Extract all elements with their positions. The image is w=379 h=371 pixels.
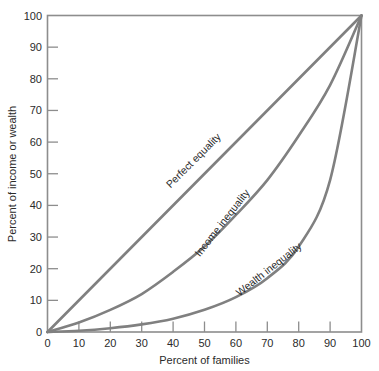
y-tick-label: 50 <box>30 168 42 180</box>
curve-label-wealth-inequality: Wealth inequality <box>233 239 304 298</box>
curve-perfect-equality <box>48 16 362 333</box>
x-tick-label: 90 <box>324 337 336 349</box>
y-tick-label: 90 <box>30 41 42 53</box>
y-tick-label: 80 <box>30 73 42 85</box>
y-tick-label: 60 <box>30 136 42 148</box>
x-tick-label: 0 <box>44 337 50 349</box>
y-axis-ticks <box>48 47 59 332</box>
y-tick-label: 40 <box>30 199 42 211</box>
y-tick-label: 100 <box>24 10 42 22</box>
x-tick-labels: 0 10 20 30 40 50 60 70 80 90 100 <box>44 337 370 349</box>
curve-label-perfect-equality: Perfect equality <box>163 130 223 190</box>
x-tick-label: 100 <box>352 337 370 349</box>
x-tick-label: 80 <box>293 337 305 349</box>
x-tick-label: 50 <box>198 337 210 349</box>
x-tick-label: 10 <box>73 337 85 349</box>
lorenz-curve-figure: 0 10 20 30 40 50 60 70 80 90 100 0 10 20… <box>0 0 379 371</box>
x-tick-label: 20 <box>104 337 116 349</box>
y-axis-title: Percent of income or wealth <box>6 106 18 242</box>
y-tick-label: 70 <box>30 104 42 116</box>
x-tick-label: 70 <box>261 337 273 349</box>
x-axis-title: Percent of families <box>159 354 250 366</box>
y-tick-label: 10 <box>30 294 42 306</box>
x-tick-label: 40 <box>167 337 179 349</box>
chart-svg: 0 10 20 30 40 50 60 70 80 90 100 0 10 20… <box>0 0 379 371</box>
curve-label-income-inequality: Income inequality <box>192 186 252 258</box>
y-tick-label: 30 <box>30 231 42 243</box>
x-tick-label: 30 <box>136 337 148 349</box>
y-tick-label: 20 <box>30 263 42 275</box>
y-tick-labels: 0 10 20 30 40 50 60 70 80 90 100 <box>24 10 42 339</box>
y-tick-label: 0 <box>36 326 42 338</box>
x-tick-label: 60 <box>230 337 242 349</box>
